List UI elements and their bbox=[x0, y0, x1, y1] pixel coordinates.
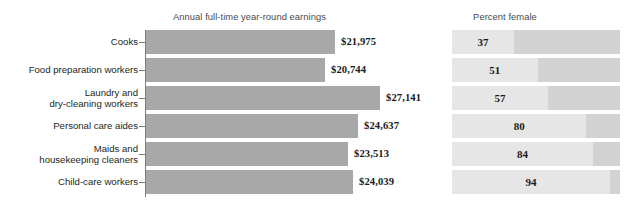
category-label-line2: housekeeping cleaners bbox=[0, 154, 138, 165]
category-label-line1: Cooks bbox=[111, 36, 138, 47]
percent-value-label: 80 bbox=[514, 114, 525, 138]
percent-value-label: 94 bbox=[525, 170, 536, 194]
category-axis-tick bbox=[139, 126, 145, 127]
category-label-line1: Laundry and bbox=[85, 87, 138, 98]
percent-panel-title: Percent female bbox=[473, 11, 537, 22]
percent-plot-area: 375157808494 bbox=[440, 30, 632, 200]
category-label: Cooks bbox=[0, 36, 138, 47]
earnings-panel-title: Annual full-time year-round earnings bbox=[173, 11, 326, 22]
earnings-value-label: $20,744 bbox=[331, 64, 366, 75]
percent-bar-track: 80 bbox=[452, 114, 620, 138]
category-axis-tick bbox=[139, 70, 145, 71]
earnings-value-label: $24,637 bbox=[364, 120, 399, 131]
category-label: Maids andhousekeeping cleaners bbox=[0, 143, 138, 166]
percent-value-label: 51 bbox=[489, 58, 500, 82]
earnings-bar bbox=[146, 170, 353, 194]
category-label-line1: Maids and bbox=[94, 143, 138, 154]
earnings-value-label: $27,141 bbox=[386, 92, 421, 103]
percent-value-label: 84 bbox=[517, 142, 528, 166]
percent-bar-track: 57 bbox=[452, 86, 620, 110]
earnings-value-label: $21,975 bbox=[341, 36, 376, 47]
category-label-line1: Personal care aides bbox=[53, 120, 138, 131]
category-label: Laundry anddry-cleaning workers bbox=[0, 87, 138, 110]
earnings-value-label: $24,039 bbox=[359, 176, 394, 187]
category-label: Food preparation workers bbox=[0, 64, 138, 75]
category-axis-tick bbox=[139, 98, 145, 99]
earnings-bar bbox=[146, 114, 358, 138]
earnings-bar bbox=[146, 58, 325, 82]
percent-bar-track: 94 bbox=[452, 170, 620, 194]
percent-bar-track: 37 bbox=[452, 30, 620, 54]
percent-bar-track: 51 bbox=[452, 58, 620, 82]
category-label-line1: Food preparation workers bbox=[29, 64, 138, 75]
percent-value-label: 57 bbox=[494, 86, 505, 110]
category-axis-tick bbox=[139, 154, 145, 155]
dual-panel-bar-chart: Annual full-time year-round earnings Per… bbox=[0, 0, 632, 208]
earnings-value-label: $23,513 bbox=[354, 148, 389, 159]
earnings-bar bbox=[146, 30, 335, 54]
percent-value-label: 37 bbox=[478, 30, 489, 54]
earnings-bar bbox=[146, 86, 380, 110]
category-label: Child-care workers bbox=[0, 176, 138, 187]
category-label-line1: Child-care workers bbox=[58, 176, 138, 187]
earnings-bar bbox=[146, 142, 348, 166]
category-axis-tick bbox=[139, 182, 145, 183]
percent-bar-track: 84 bbox=[452, 142, 620, 166]
category-label: Personal care aides bbox=[0, 120, 138, 131]
category-axis-tick bbox=[139, 42, 145, 43]
category-label-line2: dry-cleaning workers bbox=[0, 98, 138, 109]
